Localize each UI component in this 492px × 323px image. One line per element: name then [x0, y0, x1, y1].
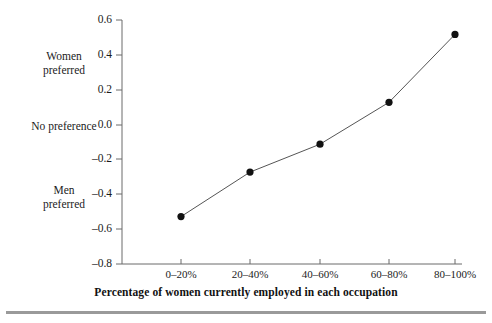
y-tick-label-neg0p2: –0.2 — [74, 152, 112, 164]
x-tick-label-20-40: 20–40% — [212, 268, 288, 280]
data-point-20-40 — [246, 169, 253, 176]
data-line-series-1 — [181, 34, 455, 216]
data-point-60-80 — [385, 99, 392, 106]
footer-divider — [6, 311, 486, 314]
x-axis-title: Percentage of women currently employed i… — [0, 286, 492, 298]
data-point-40-60 — [316, 141, 323, 148]
y-axis-ticks — [116, 20, 122, 264]
chart-figure: 0.6 0.4 0.2 0.0 –0.2 –0.4 –0.6 –0.8 0–20… — [0, 0, 492, 323]
y-tick-label-neg0p6: –0.6 — [74, 222, 112, 234]
annotation-no-preference: No preference — [12, 120, 116, 134]
data-point-0-20 — [177, 213, 184, 220]
x-tick-label-40-60: 40–60% — [282, 268, 358, 280]
data-point-80-100 — [451, 31, 458, 38]
annotation-men-preferred: Men preferred — [12, 184, 116, 211]
y-tick-label-neg0p8: –0.8 — [74, 257, 112, 269]
annotation-women-preferred: Women preferred — [12, 50, 116, 77]
y-tick-label-0p6: 0.6 — [74, 13, 112, 25]
x-tick-label-80-100: 80–100% — [417, 268, 492, 280]
y-tick-label-0p2: 0.2 — [74, 83, 112, 95]
x-axis-ticks — [181, 259, 455, 264]
x-tick-label-0-20: 0–20% — [143, 268, 219, 280]
x-tick-label-60-80: 60–80% — [351, 268, 427, 280]
